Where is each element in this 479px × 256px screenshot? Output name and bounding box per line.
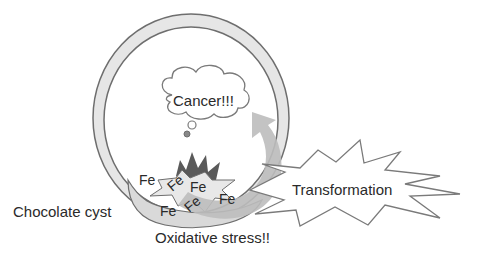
iron-label: Fe bbox=[219, 192, 235, 206]
chocolate-cyst-label: Chocolate cyst bbox=[13, 204, 111, 219]
cancer-label: Cancer!!! bbox=[173, 93, 234, 108]
iron-label: Fe bbox=[160, 204, 176, 218]
oxidative-stress-label: Oxidative stress!! bbox=[155, 230, 270, 245]
iron-label: Fe bbox=[139, 173, 155, 187]
transformation-label: Transformation bbox=[292, 182, 392, 197]
